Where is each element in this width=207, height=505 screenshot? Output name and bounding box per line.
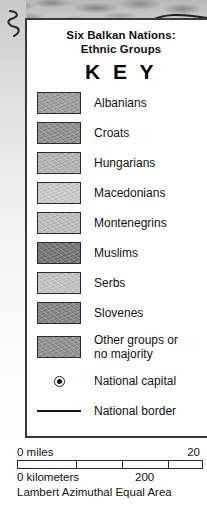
swatch-hungarians <box>37 152 81 174</box>
legend-item-hungarians[interactable]: Hungarians <box>37 148 207 178</box>
scale-miles-max-label: 20 <box>187 446 200 459</box>
legend-item-national-capital[interactable]: National capital <box>37 366 207 396</box>
border-line-icon <box>37 410 81 412</box>
legend-label-national-border: National border <box>94 404 176 418</box>
legend-label-muslims: Muslims <box>94 246 138 260</box>
scale-km-mid-label: 200 <box>135 470 154 484</box>
legend-label-other-groups-line-2: no majority <box>94 347 153 361</box>
legend-entry-list: Albanians Croats Hungarians Macedonians … <box>37 88 207 426</box>
key-heading: K E Y <box>37 59 205 85</box>
swatch-croats <box>37 122 81 144</box>
scale-miles-labels: 0 miles 20 <box>17 446 200 459</box>
scale-miles-zero-label: 0 miles <box>17 446 53 459</box>
legend-item-montenegrins[interactable]: Montenegrins <box>37 208 207 238</box>
legend-item-serbs[interactable]: Serbs <box>37 268 207 298</box>
legend-label-slovenes: Slovenes <box>94 306 143 320</box>
legend-label-montenegrins: Montenegrins <box>94 216 167 230</box>
legend-item-muslims[interactable]: Muslims <box>37 238 207 268</box>
swatch-macedonians <box>37 182 81 204</box>
legend-label-serbs: Serbs <box>94 276 125 290</box>
legend-item-croats[interactable]: Croats <box>37 118 207 148</box>
scale-kilometers-labels: 0 kilometers 200 <box>17 470 207 484</box>
legend-label-croats: Croats <box>94 126 129 140</box>
map-key-panel: Six Balkan Nations: Ethnic Groups K E Y … <box>25 18 207 438</box>
capital-bullseye-icon <box>37 376 81 387</box>
legend-item-albanians[interactable]: Albanians <box>37 88 207 118</box>
legend-item-slovenes[interactable]: Slovenes <box>37 298 207 328</box>
swatch-serbs <box>37 272 81 294</box>
swatch-slovenes <box>37 302 81 324</box>
scale-bar-block: 0 miles 20 0 kilometers 200 Lambert Azim… <box>17 446 207 499</box>
key-title-line-2: Ethnic Groups <box>37 42 205 56</box>
legend-item-national-border[interactable]: National border <box>37 396 207 426</box>
key-title-line-1: Six Balkan Nations: <box>37 28 205 42</box>
legend-label-macedonians: Macedonians <box>94 186 165 200</box>
map-projection-label: Lambert Azimuthal Equal Area <box>17 485 207 499</box>
scale-bar-graphic <box>17 460 203 469</box>
legend-label-other-groups-line-1: Other groups or <box>94 333 178 347</box>
legend-label-hungarians: Hungarians <box>94 156 155 170</box>
legend-label-national-capital: National capital <box>94 374 176 388</box>
swatch-muslims <box>37 242 81 264</box>
legend-label-other-groups: Other groups or no majority <box>94 333 178 362</box>
legend-item-other-groups[interactable]: Other groups or no majority <box>37 328 207 366</box>
terrain-relief-left-margin <box>0 0 26 440</box>
legend-item-macedonians[interactable]: Macedonians <box>37 178 207 208</box>
swatch-albanians <box>37 92 81 114</box>
legend-label-albanians: Albanians <box>94 96 147 110</box>
swatch-montenegrins <box>37 212 81 234</box>
swatch-other-groups <box>37 336 81 358</box>
